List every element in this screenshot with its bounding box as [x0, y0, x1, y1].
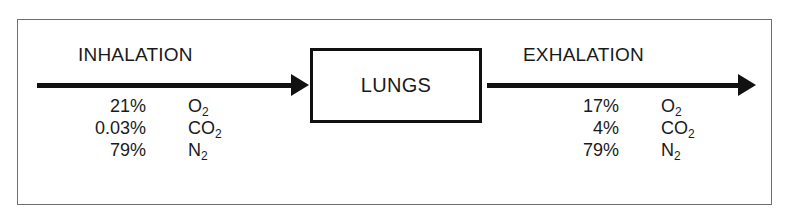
gas-percent: 17%: [535, 96, 619, 117]
gas-formula: N2: [661, 140, 733, 161]
gas-percent: 21%: [62, 96, 146, 117]
gas-percent: 79%: [62, 140, 146, 161]
respiration-diagram: INHALATION EXHALATION LUNGS 21% O2 0.03%…: [0, 0, 789, 219]
table-row: 21% O2: [62, 96, 260, 118]
gas-formula-main: O: [188, 96, 202, 116]
exhalation-heading: EXHALATION: [523, 44, 644, 66]
gas-formula-sub: 2: [674, 149, 681, 163]
exhalation-arrow-head-icon: [738, 74, 756, 96]
gas-formula-sub: 2: [688, 127, 695, 141]
table-row: 0.03% CO2: [62, 118, 260, 140]
gas-formula-sub: 2: [215, 127, 222, 141]
table-row: 17% O2: [535, 96, 733, 118]
gas-formula: N2: [188, 140, 260, 161]
table-row: 4% CO2: [535, 118, 733, 140]
table-row: 79% N2: [535, 140, 733, 162]
gas-formula-sub: 2: [202, 105, 209, 119]
lungs-node-label: LUNGS: [361, 74, 431, 97]
exhalation-gas-table: 17% O2 4% CO2 79% N2: [535, 96, 733, 162]
lungs-node: LUNGS: [310, 48, 482, 123]
inhalation-arrow-head-icon: [291, 74, 309, 96]
gas-formula: O2: [661, 96, 733, 117]
gas-formula-sub: 2: [201, 149, 208, 163]
inhalation-arrow-shaft: [37, 83, 295, 88]
gas-percent: 4%: [535, 118, 619, 139]
gas-formula-sub: 2: [675, 105, 682, 119]
inhalation-heading: INHALATION: [78, 44, 193, 66]
gas-formula: CO2: [661, 118, 733, 139]
exhalation-arrow-shaft: [487, 83, 742, 88]
gas-percent: 79%: [535, 140, 619, 161]
gas-formula-main: CO: [661, 118, 688, 138]
gas-formula-main: CO: [188, 118, 215, 138]
table-row: 79% N2: [62, 140, 260, 162]
gas-formula-main: O: [661, 96, 675, 116]
inhalation-gas-table: 21% O2 0.03% CO2 79% N2: [62, 96, 260, 162]
gas-formula-main: N: [661, 140, 674, 160]
gas-percent: 0.03%: [62, 118, 146, 139]
gas-formula-main: N: [188, 140, 201, 160]
gas-formula: O2: [188, 96, 260, 117]
gas-formula: CO2: [188, 118, 260, 139]
